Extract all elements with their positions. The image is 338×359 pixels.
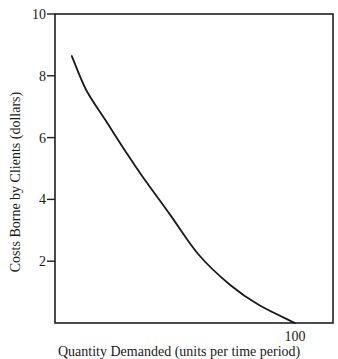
plot-border [55,14,333,323]
y-tick-label: 8 [39,69,46,84]
demand-curve-line [72,56,295,323]
y-tick-label: 10 [32,7,46,22]
y-tick-label: 4 [39,192,46,207]
x-axis-ticks: 100 [285,329,306,344]
plot-frame [55,14,333,323]
x-tick-label: 100 [285,329,306,344]
y-tick-label: 2 [39,254,46,269]
y-axis-ticks: 246810 [32,7,55,269]
y-tick-label: 6 [39,131,46,146]
y-axis-label: Costs Borne by Clients (dollars) [8,91,24,272]
x-axis-label: Quantity Demanded (units per time period… [58,344,301,359]
demand-chart: 246810 100 Quantity Demanded (units per … [0,0,338,359]
